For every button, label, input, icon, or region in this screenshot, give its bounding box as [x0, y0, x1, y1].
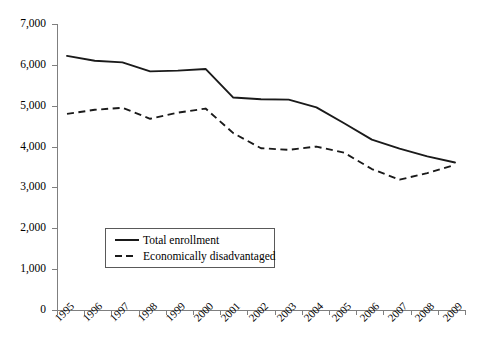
plot-area — [0, 0, 483, 362]
legend-label-total-enrollment: Total enrollment — [143, 234, 219, 246]
series-line-economically-disadvantaged — [67, 108, 455, 180]
chart-legend: Total enrollment Economically disadvanta… — [105, 228, 275, 268]
legend-solid-line-icon — [113, 234, 141, 246]
legend-item-economically-disadvantaged: Economically disadvantaged — [113, 248, 276, 264]
enrollment-line-chart: 01,0002,0003,0004,0005,0006,0007,000 199… — [0, 0, 483, 362]
legend-item-total-enrollment: Total enrollment — [113, 232, 219, 248]
legend-label-economically-disadvantaged: Economically disadvantaged — [143, 250, 276, 262]
legend-dashed-line-icon — [113, 250, 141, 262]
